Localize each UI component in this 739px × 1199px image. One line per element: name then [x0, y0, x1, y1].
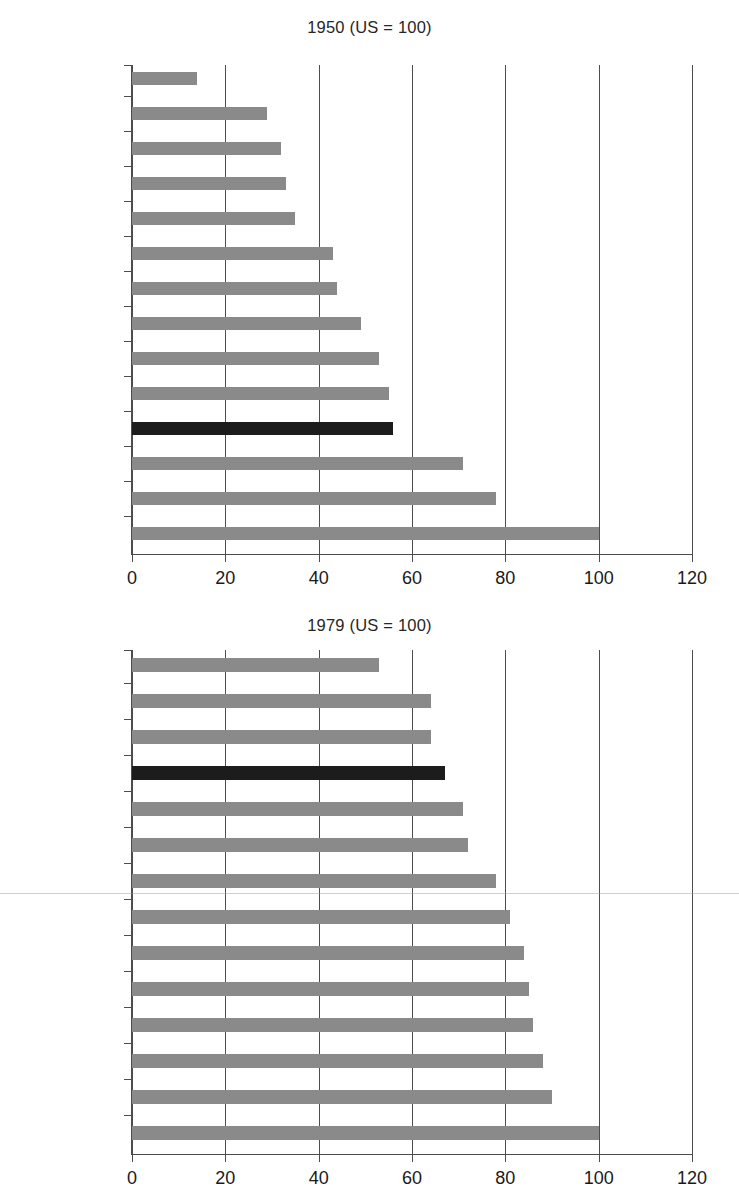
bar-1979-denmark	[132, 730, 431, 744]
x-tick-label-1950-80: 80	[495, 568, 515, 589]
x-tick-label-1979-80: 80	[495, 1168, 515, 1189]
y-tick-1979-12	[124, 1079, 132, 1080]
y-tick-1979-10	[124, 1007, 132, 1008]
gridline-1950-40	[319, 65, 320, 555]
x-tick-label-1979-20: 20	[215, 1168, 235, 1189]
x-tick-label-1979-0: 0	[127, 1168, 137, 1189]
gridline-1950-20	[225, 65, 226, 555]
x-tick-label-1950-0: 0	[127, 568, 137, 589]
chart-1950-title: 1950 (US = 100)	[0, 18, 739, 37]
x-tick-1950-80	[505, 554, 506, 562]
y-tick-1950-7	[124, 306, 132, 307]
bar-1950-canada	[132, 492, 496, 505]
y-tick-1979-1	[124, 683, 132, 684]
gridline-1979-80	[505, 650, 506, 1155]
x-tick-label-1979-60: 60	[402, 1168, 422, 1189]
x-tick-1950-20	[225, 554, 226, 562]
x-tick-label-1950-100: 100	[584, 568, 614, 589]
y-tick-1950-5	[124, 236, 132, 237]
x-tick-label-1950-20: 20	[215, 568, 235, 589]
x-tick-label-1979-100: 100	[584, 1168, 614, 1189]
bar-1979-netherlands	[132, 1090, 552, 1104]
bar-1979-france	[132, 1018, 533, 1032]
y-tick-1950-11	[124, 446, 132, 447]
bar-1979-canada	[132, 982, 529, 996]
gridline-1950-60	[412, 65, 413, 555]
gridline-1979-0	[132, 650, 133, 1155]
y-tick-1979-3	[124, 755, 132, 756]
y-tick-1979-4	[124, 791, 132, 792]
chart-1950: 1950 (US = 100) 020406080100120JapanAust…	[0, 0, 739, 599]
x-tick-1950-40	[319, 554, 320, 562]
y-tick-1950-2	[124, 131, 132, 132]
y-tick-1950-8	[124, 341, 132, 342]
y-tick-1979-9	[124, 971, 132, 972]
bar-1950-denmark	[132, 247, 333, 260]
x-tick-1950-60	[412, 554, 413, 562]
bar-1979-belgium	[132, 1054, 543, 1068]
y-tick-1950-13	[124, 516, 132, 517]
gridline-1979-20	[225, 650, 226, 1155]
bar-1950-france	[132, 282, 337, 295]
bar-1979-germany	[132, 946, 524, 960]
x-tick-1950-0	[132, 554, 133, 562]
y-tick-1950-4	[124, 201, 132, 202]
bar-1950-finland	[132, 212, 295, 225]
x-tick-1979-120	[692, 1154, 693, 1162]
y-tick-1979-6	[124, 863, 132, 864]
y-tick-1979-13	[124, 1115, 132, 1116]
bar-1950-belgium	[132, 317, 361, 330]
bar-1950-germany	[132, 177, 286, 190]
y-tick-1950-9	[124, 376, 132, 377]
x-tick-label-1950-120: 120	[677, 568, 707, 589]
gridline-1950-120	[692, 65, 693, 555]
bar-1950-australia	[132, 457, 463, 470]
bar-1979-japan	[132, 658, 379, 672]
x-tick-1979-60	[412, 1154, 413, 1162]
scan-artifact-line	[0, 893, 739, 894]
y-tick-1979-2	[124, 719, 132, 720]
x-tick-1950-100	[599, 554, 600, 562]
x-tick-1979-0	[132, 1154, 133, 1162]
x-tick-1979-80	[505, 1154, 506, 1162]
y-tick-1950-3	[124, 166, 132, 167]
bar-1950-usa	[132, 527, 599, 540]
y-tick-1950-12	[124, 481, 132, 482]
gridline-1979-40	[319, 650, 320, 1155]
y-tick-1979-7	[124, 899, 132, 900]
gridline-1979-100	[599, 650, 600, 1155]
x-tick-1979-40	[319, 1154, 320, 1162]
y-tick-1950-10	[124, 411, 132, 412]
x-tick-1979-20	[225, 1154, 226, 1162]
bar-1950-japan	[132, 72, 197, 85]
gridline-1979-60	[412, 650, 413, 1155]
gridline-1950-100	[599, 65, 600, 555]
bar-1979-uk	[132, 766, 445, 780]
y-tick-1979-8	[124, 935, 132, 936]
gridline-1950-80	[505, 65, 506, 555]
y-tick-1950-0	[124, 65, 132, 66]
chart-1950-plot-area: 020406080100120JapanAustriaItalyGermanyF…	[132, 65, 692, 555]
bar-1950-austria	[132, 107, 267, 120]
x-tick-1979-100	[599, 1154, 600, 1162]
y-tick-1979-11	[124, 1043, 132, 1044]
bar-1979-australia	[132, 874, 496, 888]
bar-1979-usa	[132, 1126, 599, 1140]
x-tick-label-1950-60: 60	[402, 568, 422, 589]
gridline-1950-0	[132, 65, 133, 555]
x-tick-label-1950-40: 40	[309, 568, 329, 589]
chart-1979-title: 1979 (US = 100)	[0, 616, 739, 635]
y-tick-1979-5	[124, 827, 132, 828]
bar-1950-sweden	[132, 387, 389, 400]
bar-1979-sweden	[132, 910, 510, 924]
bar-1979-finland	[132, 694, 431, 708]
bar-1950-italy	[132, 142, 281, 155]
chart-1979-plot-area: 020406080100120JapanFinlandDenmarkUKItal…	[132, 650, 692, 1155]
x-tick-1950-120	[692, 554, 693, 562]
bar-1979-austria	[132, 838, 468, 852]
x-tick-label-1979-40: 40	[309, 1168, 329, 1189]
y-tick-1979-0	[124, 650, 132, 651]
x-tick-label-1979-120: 120	[677, 1168, 707, 1189]
bar-1950-uk	[132, 422, 393, 435]
y-tick-1950-6	[124, 271, 132, 272]
